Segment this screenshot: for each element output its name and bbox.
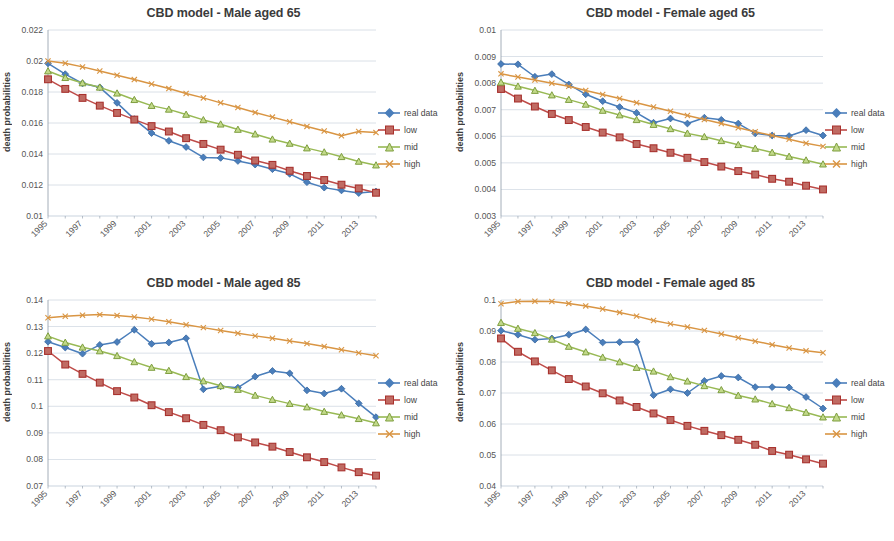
chart-panel-female-65: CBD model - Female aged 65 death probabi… (447, 0, 894, 270)
svg-text:2007: 2007 (236, 218, 257, 239)
legend-label-high: high (851, 428, 867, 440)
legend-label-low: low (851, 394, 864, 406)
legend-marker-square-icon (825, 394, 847, 406)
legend-marker-cross-icon (825, 158, 847, 170)
svg-text:0.1: 0.1 (484, 295, 496, 305)
svg-text:0.06: 0.06 (479, 419, 496, 429)
svg-text:2009: 2009 (271, 488, 292, 509)
svg-text:1997: 1997 (63, 218, 84, 239)
svg-text:2013: 2013 (340, 488, 361, 509)
chart-panel-male-65: CBD model - Male aged 65 death probabili… (0, 0, 447, 270)
legend-item-mid[interactable]: mid (825, 408, 884, 425)
plot-area-male-85: 0.070.080.090.10.110.120.130.14199519971… (12, 292, 382, 532)
svg-text:0.02: 0.02 (26, 56, 43, 66)
legend-female-85: real data low mid high (825, 374, 884, 442)
legend-item-real-data[interactable]: real data (378, 104, 437, 121)
svg-text:1995: 1995 (29, 218, 50, 239)
svg-text:1995: 1995 (29, 488, 50, 509)
chart-title-male-85: CBD model - Male aged 85 (0, 276, 447, 290)
legend-marker-diamond-icon (825, 377, 847, 389)
y-axis-label-female-85: death probabilities (455, 342, 465, 422)
svg-text:2013: 2013 (787, 488, 808, 509)
svg-text:0.004: 0.004 (474, 184, 496, 194)
legend-label-high: high (404, 428, 420, 440)
svg-text:2007: 2007 (685, 218, 706, 239)
svg-text:0.008: 0.008 (474, 78, 496, 88)
svg-text:1995: 1995 (482, 488, 503, 509)
legend-item-high[interactable]: high (825, 425, 884, 442)
chart-title-female-65: CBD model - Female aged 65 (447, 6, 894, 20)
legend-label-real-data: real data (851, 107, 884, 119)
legend-item-high[interactable]: high (378, 425, 437, 442)
legend-marker-triangle-icon (825, 141, 847, 153)
legend-item-mid[interactable]: mid (825, 138, 884, 155)
legend-label-mid: mid (851, 411, 865, 423)
svg-text:0.01: 0.01 (479, 25, 496, 35)
svg-text:0.13: 0.13 (26, 322, 43, 332)
legend-marker-triangle-icon (378, 411, 400, 423)
legend-item-low[interactable]: low (825, 391, 884, 408)
svg-text:2005: 2005 (201, 218, 222, 239)
y-axis-label-male-85: death probabilities (2, 342, 12, 422)
legend-label-low: low (404, 394, 417, 406)
svg-text:0.1: 0.1 (31, 401, 43, 411)
svg-text:2003: 2003 (617, 218, 638, 239)
svg-text:2011: 2011 (753, 218, 773, 238)
svg-text:0.14: 0.14 (26, 295, 43, 305)
svg-text:1997: 1997 (516, 488, 537, 509)
svg-text:2003: 2003 (167, 488, 188, 509)
legend-marker-cross-icon (378, 428, 400, 440)
svg-text:2005: 2005 (651, 488, 672, 509)
legend-marker-square-icon (825, 124, 847, 136)
legend-label-mid: mid (851, 141, 865, 153)
svg-text:0.09: 0.09 (479, 326, 496, 336)
svg-text:2009: 2009 (719, 488, 740, 509)
legend-item-low[interactable]: low (825, 121, 884, 138)
legend-item-high[interactable]: high (378, 155, 437, 172)
svg-text:0.08: 0.08 (26, 454, 43, 464)
svg-text:2001: 2001 (132, 218, 153, 239)
legend-item-mid[interactable]: mid (378, 138, 437, 155)
svg-text:0.05: 0.05 (479, 450, 496, 460)
plot-area-female-65: 0.0030.0040.0050.0060.0070.0080.0090.011… (465, 22, 829, 262)
legend-marker-cross-icon (825, 428, 847, 440)
svg-text:0.09: 0.09 (26, 428, 43, 438)
legend-male-65: real data low mid high (378, 104, 437, 172)
legend-label-low: low (851, 124, 864, 136)
chart-title-male-65: CBD model - Male aged 65 (0, 6, 447, 20)
legend-item-real-data[interactable]: real data (378, 374, 437, 391)
legend-item-low[interactable]: low (378, 121, 437, 138)
plot-area-male-65: 0.010.0120.0140.0160.0180.020.0221995199… (12, 22, 382, 262)
y-axis-label-male-65: death probabilities (2, 72, 12, 152)
svg-text:0.009: 0.009 (474, 52, 496, 62)
legend-item-real-data[interactable]: real data (825, 104, 884, 121)
legend-male-85: real data low mid high (378, 374, 437, 442)
legend-marker-diamond-icon (378, 377, 400, 389)
svg-text:0.08: 0.08 (479, 357, 496, 367)
chart-panel-male-85: CBD model - Male aged 85 death probabili… (0, 270, 447, 541)
svg-text:0.07: 0.07 (479, 388, 496, 398)
legend-item-high[interactable]: high (825, 155, 884, 172)
svg-text:1997: 1997 (63, 488, 84, 509)
svg-text:1995: 1995 (482, 218, 503, 239)
legend-item-mid[interactable]: mid (378, 408, 437, 425)
svg-text:0.005: 0.005 (474, 158, 496, 168)
svg-text:2011: 2011 (305, 218, 325, 238)
svg-text:2001: 2001 (584, 488, 605, 509)
legend-item-real-data[interactable]: real data (825, 374, 884, 391)
legend-label-real-data: real data (851, 377, 884, 389)
svg-text:0.007: 0.007 (474, 105, 496, 115)
chart-panel-female-85: CBD model - Female aged 85 death probabi… (447, 270, 894, 541)
svg-text:0.11: 0.11 (27, 375, 43, 385)
svg-text:0.12: 0.12 (26, 348, 43, 358)
legend-label-low: low (404, 124, 417, 136)
legend-label-high: high (851, 158, 867, 170)
chart-title-female-85: CBD model - Female aged 85 (447, 276, 894, 290)
legend-marker-triangle-icon (825, 411, 847, 423)
legend-item-low[interactable]: low (378, 391, 437, 408)
svg-text:2003: 2003 (167, 218, 188, 239)
svg-text:0.006: 0.006 (474, 131, 496, 141)
legend-marker-cross-icon (378, 158, 400, 170)
svg-text:0.022: 0.022 (21, 25, 43, 35)
svg-text:1999: 1999 (550, 488, 571, 509)
